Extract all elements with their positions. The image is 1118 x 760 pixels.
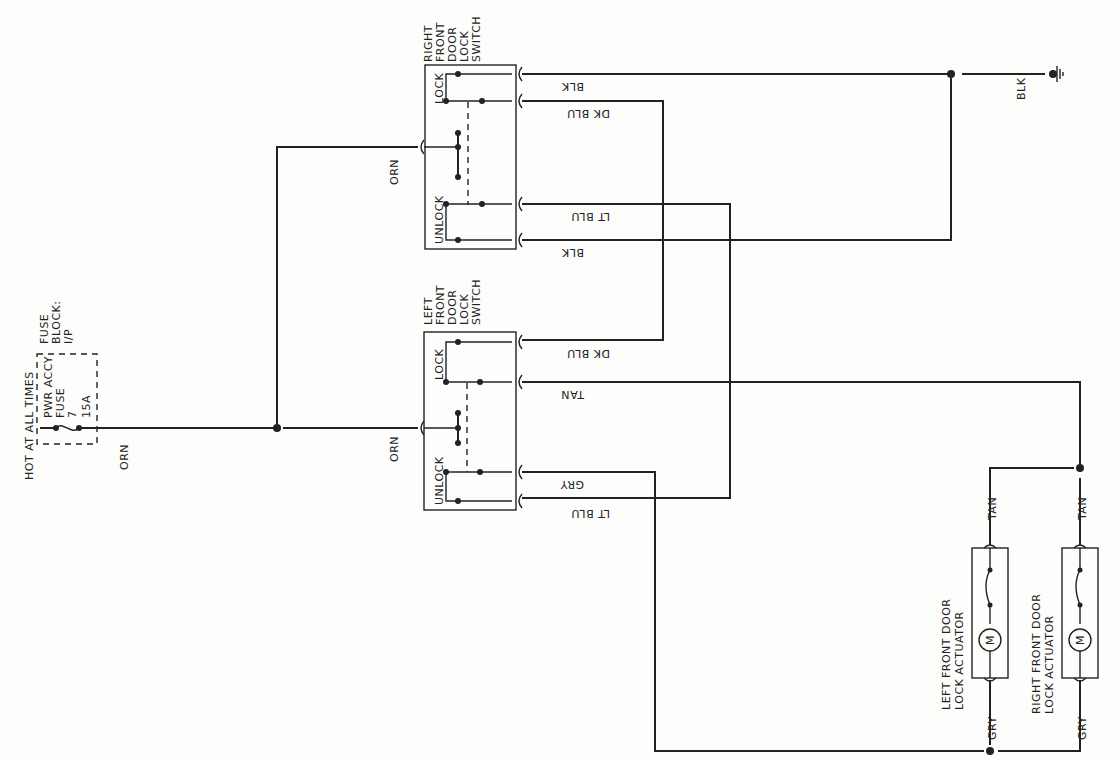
actuator-title-2: LOCK ACTUATOR — [953, 611, 966, 710]
lock-label: LOCK — [433, 348, 446, 380]
actuator-title-2: LOCK ACTUATOR — [1043, 615, 1056, 714]
left-front-door-lock-switch: LEFT FRONT DOOR LOCK SWITCH LOCK UNLOCK … — [388, 279, 522, 510]
switch-title-line: SWITCH — [470, 279, 483, 325]
switch-title-line: SWITCH — [470, 16, 483, 62]
ground-wire-label: BLK — [1015, 77, 1028, 100]
splice-dot — [273, 424, 281, 432]
ground: BLK — [947, 66, 1063, 100]
fuse-icon — [40, 425, 82, 431]
wire-label-dk-blu: DK BLU — [567, 347, 610, 360]
hot-at-all-times-label: HOT AT ALL TIMES — [23, 371, 36, 480]
wire-label-blk-2: BLK — [561, 246, 584, 259]
gry-splice-dot — [986, 747, 994, 755]
wire-label-blk: BLK — [561, 80, 584, 93]
motor-label: M — [984, 635, 997, 645]
fuse-block: HOT AT ALL TIMES PWR ACCY FUSE 7 15A FUS… — [23, 300, 277, 480]
tan-splice-dot — [1076, 464, 1084, 472]
right-front-door-lock-actuator: M RIGHT FRONT DOOR LOCK ACTUATOR — [1030, 545, 1098, 714]
ground-icon — [1057, 66, 1063, 82]
left-front-door-lock-actuator: M LEFT FRONT DOOR LOCK ACTUATOR — [940, 545, 1008, 710]
gry-wire-label-right: GRY — [1076, 716, 1089, 740]
fuse-rating: 15A — [80, 395, 93, 418]
orn-wire-label: ORN — [118, 444, 131, 470]
right-front-door-lock-switch: RIGHT FRONT DOOR LOCK SWITCH LOCK UNLOCK… — [388, 16, 522, 249]
wire-label-lt-blu: LT BLU — [571, 210, 610, 223]
tan-wire-label-left: TAN — [986, 497, 999, 521]
gry-wire-label-left: GRY — [986, 716, 999, 740]
orn-branch-wire — [277, 147, 418, 424]
wire-label-tan: TAN — [561, 388, 585, 401]
unlock-label: UNLOCK — [433, 456, 446, 505]
tan-wire-label-right: TAN — [1076, 497, 1089, 521]
motor-label: M — [1074, 635, 1087, 645]
fuse-block-label-3: I/P — [62, 329, 75, 344]
wire-label-dk-blu: DK BLU — [567, 107, 610, 120]
wire-label-gry: GRY — [560, 478, 584, 491]
wire-label-lt-blu: LT BLU — [571, 507, 610, 520]
left-switch-in-wire-label: ORN — [388, 436, 401, 462]
wiring-diagram: HOT AT ALL TIMES PWR ACCY FUSE 7 15A FUS… — [0, 0, 1118, 760]
tan-wire — [522, 382, 1080, 468]
fuse-number: 7 — [66, 411, 79, 419]
actuator-title-1: LEFT FRONT DOOR — [940, 599, 953, 710]
lt-blu-wire — [522, 204, 730, 498]
right-switch-in-wire-label: ORN — [388, 159, 401, 185]
actuator-title-1: RIGHT FRONT DOOR — [1030, 594, 1043, 714]
